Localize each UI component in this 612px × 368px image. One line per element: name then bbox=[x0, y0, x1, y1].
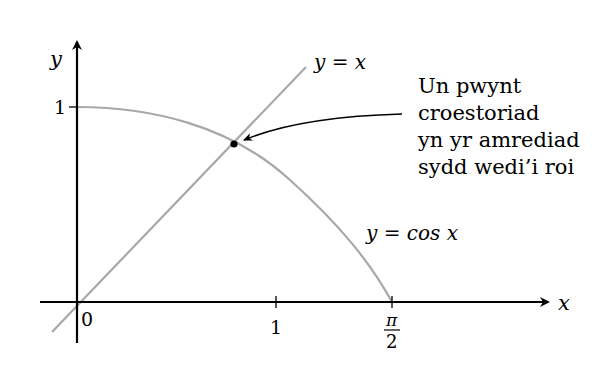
x-axis-label: x bbox=[558, 291, 570, 315]
annotation-line-1: Un pwynt bbox=[418, 74, 522, 98]
x-tick-pi-denominator: 2 bbox=[386, 331, 397, 352]
x-tick-1-label: 1 bbox=[270, 316, 282, 338]
annotation-arrow bbox=[244, 114, 402, 140]
line-label: y = x bbox=[313, 50, 366, 74]
annotation-line-4: sydd wedi’i roi bbox=[418, 155, 575, 179]
intersection-point bbox=[230, 140, 237, 147]
graph-canvas: y x 0 1 1 π 2 y = x y = cos x Un pwynt c… bbox=[0, 0, 612, 368]
cos-curve bbox=[77, 107, 392, 302]
y-tick-1-label: 1 bbox=[54, 96, 66, 118]
origin-label: 0 bbox=[81, 308, 93, 330]
annotation-text: Un pwynt croestoriad yn yr amrediad sydd… bbox=[417, 74, 586, 179]
y-axis-label: y bbox=[49, 47, 63, 71]
x-tick-pi-numerator: π bbox=[385, 310, 398, 330]
cos-label: y = cos x bbox=[365, 221, 458, 245]
annotation-line-2: croestoriad bbox=[418, 101, 539, 125]
annotation-line-3: yn yr amrediad bbox=[417, 128, 580, 152]
